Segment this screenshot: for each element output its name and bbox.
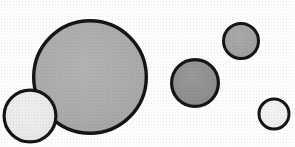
top-right-gray-circle (224, 24, 259, 59)
left-light-circle (4, 90, 56, 142)
bottom-right-light-circle (259, 99, 289, 129)
middle-dark-gray-circle (172, 60, 219, 107)
circles-figure: Five outlined circles of varying size an… (0, 0, 295, 147)
figure-canvas: Five outlined circles of varying size an… (0, 0, 295, 147)
